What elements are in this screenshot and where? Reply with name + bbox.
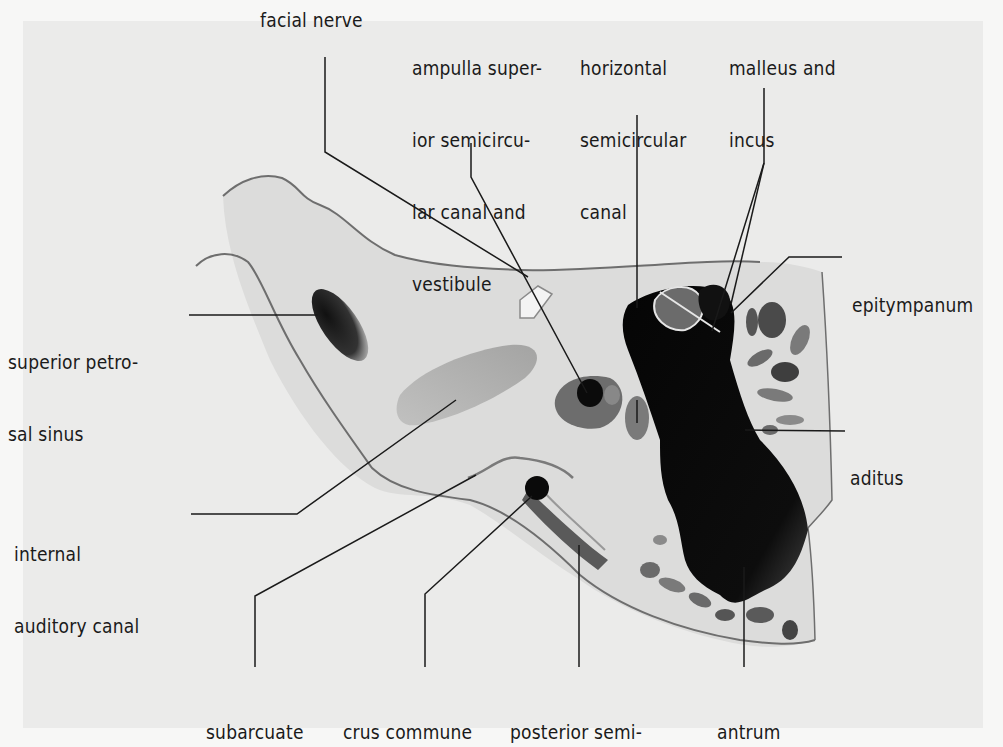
label-line: aditus (850, 466, 904, 490)
label-epitympanum: epitympanum (852, 245, 973, 341)
label-line: sal sinus (8, 422, 138, 446)
label-line: semicircular (580, 128, 686, 152)
label-line: ior semicircu- (412, 128, 542, 152)
label-aditus: aditus (850, 418, 904, 514)
label-line: posterior semi- (510, 720, 642, 744)
label-internal-auditory-canal: internal auditory canal (14, 494, 139, 662)
label-malleus-and-incus: malleus and incus (729, 8, 836, 176)
label-line: vestibule (412, 272, 542, 296)
label-line: lar canal and (412, 200, 542, 224)
label-line: internal (14, 542, 139, 566)
label-line: facial nerve (260, 8, 363, 32)
label-line: crus commune (343, 720, 472, 744)
leader-line-aditus (745, 430, 845, 431)
label-line: horizontal (580, 56, 686, 80)
label-antrum: antrum (717, 672, 781, 747)
label-crus-commune: crus commune (343, 672, 472, 747)
label-ampulla-superior-semicircular-canal-vestibule: ampulla super- ior semicircu- lar canal … (412, 8, 542, 320)
label-line: canal (580, 200, 686, 224)
label-horizontal-semicircular-canal: horizontal semicircular canal (580, 8, 686, 248)
label-posterior-semicircular-canal: posterior semi- circular canal (510, 672, 642, 747)
label-line: auditory canal (14, 614, 139, 638)
label-subarcuate-vessels: subarcuate vessels (206, 672, 304, 747)
label-superior-petrosal-sinus: superior petro- sal sinus (8, 302, 138, 470)
label-facial-nerve: facial nerve (260, 8, 363, 32)
leader-line-subarcuate-vessels (255, 475, 476, 667)
label-line: malleus and (729, 56, 836, 80)
label-line: epitympanum (852, 293, 973, 317)
label-line: incus (729, 128, 836, 152)
crus-commune-shape (525, 476, 549, 500)
label-line: antrum (717, 720, 781, 744)
label-line: subarcuate (206, 720, 304, 744)
label-line: superior petro- (8, 350, 138, 374)
label-line: ampulla super- (412, 56, 542, 80)
